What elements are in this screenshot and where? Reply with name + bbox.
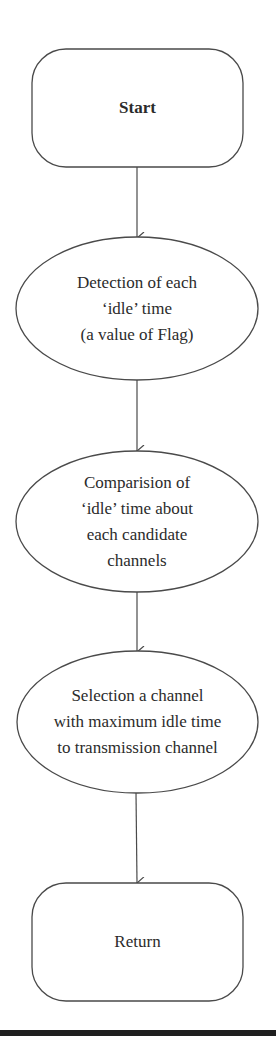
select-node-label-line-1: Selection a channel: [71, 683, 203, 709]
select-node-label-line-3: to transmission channel: [57, 735, 218, 761]
arrow-select-to-return: [136, 793, 137, 883]
compare-node-label-line-3: each candidate: [87, 522, 188, 548]
return-node: Return: [32, 883, 243, 1001]
start-node: Start: [32, 49, 243, 167]
select-node: Selection a channel with maximum idle ti…: [17, 651, 258, 793]
compare-node-label-line-2: ‘idle’ time about: [81, 496, 193, 522]
compare-node-label-line-1: Comparision of: [84, 470, 190, 496]
bottom-divider: [0, 1030, 276, 1036]
detect-node-label-line-1: Detection of each: [77, 270, 197, 296]
detect-node-label-line-3: (a value of Flag): [81, 322, 194, 348]
select-node-label-line-2: with maximum idle time: [54, 709, 222, 735]
compare-node: Comparision of ‘idle’ time about each ca…: [16, 451, 258, 592]
detect-node-label-line-2: ‘idle’ time: [102, 296, 172, 322]
start-node-label: Start: [119, 95, 156, 121]
detect-node: Detection of each ‘idle’ time (a value o…: [16, 237, 258, 380]
compare-node-label-line-4: channels: [107, 548, 166, 574]
return-node-label: Return: [114, 929, 160, 955]
